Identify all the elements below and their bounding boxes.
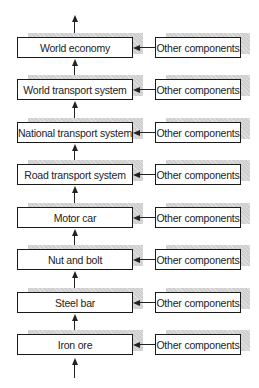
level-row-national-transport-system: National transport system Other componen… xyxy=(0,122,259,148)
level-label: Nut and bolt xyxy=(48,254,102,266)
input-arrow-line xyxy=(139,132,155,133)
input-box: Other components xyxy=(155,122,241,143)
input-arrow-line xyxy=(139,259,155,260)
top-arrow-head-icon xyxy=(72,15,78,22)
input-arrow-line xyxy=(139,174,155,175)
level-box: World transport system xyxy=(17,79,133,100)
connector-arrow-head-icon xyxy=(72,229,78,236)
level-label: Steel bar xyxy=(55,297,95,309)
level-row-iron-ore: Iron ore Other components xyxy=(0,334,259,360)
level-row-world-transport-system: World transport system Other components xyxy=(0,79,259,105)
level-row-steel-bar: Steel bar Other components xyxy=(0,292,259,318)
input-arrow-head-icon xyxy=(133,45,140,51)
connector-arrow-head-icon xyxy=(72,59,78,66)
input-box: Other components xyxy=(155,292,241,313)
input-label: Other components xyxy=(156,339,239,351)
input-box: Other components xyxy=(155,249,241,270)
input-label: Other components xyxy=(156,42,239,54)
input-box: Other components xyxy=(155,164,241,185)
input-arrow-head-icon xyxy=(133,300,140,306)
level-label: Motor car xyxy=(54,212,97,224)
level-row-nut-and-bolt: Nut and bolt Other components xyxy=(0,249,259,275)
input-arrow-line xyxy=(139,89,155,90)
input-arrow-line xyxy=(139,47,155,48)
input-label: Other components xyxy=(156,297,239,309)
input-arrow-head-icon xyxy=(133,87,140,93)
input-box: Other components xyxy=(155,37,241,58)
input-arrow-head-icon xyxy=(133,215,140,221)
connector-arrow-head-icon xyxy=(72,101,78,108)
input-label: Other components xyxy=(156,169,239,181)
input-label: Other components xyxy=(156,254,239,266)
input-label: Other components xyxy=(156,127,239,139)
system-hierarchy-diagram: World economy Other components World tra… xyxy=(0,0,259,388)
level-box: Steel bar xyxy=(17,292,133,313)
input-arrow-line xyxy=(139,344,155,345)
connector-arrow-head-icon xyxy=(72,186,78,193)
level-row-road-transport-system: Road transport system Other components xyxy=(0,164,259,190)
input-arrow-head-icon xyxy=(133,342,140,348)
level-label: World transport system xyxy=(23,84,126,96)
level-box: Iron ore xyxy=(17,334,133,355)
input-box: Other components xyxy=(155,334,241,355)
bottom-arrow-head-icon xyxy=(72,358,78,365)
level-label: National transport system xyxy=(18,127,132,139)
level-row-world-economy: World economy Other components xyxy=(0,37,259,63)
input-arrow-head-icon xyxy=(133,172,140,178)
input-box: Other components xyxy=(155,207,241,228)
level-label: Road transport system xyxy=(24,169,125,181)
input-label: Other components xyxy=(156,84,239,96)
level-box: Road transport system xyxy=(17,164,133,185)
input-arrow-head-icon xyxy=(133,130,140,136)
level-box: Motor car xyxy=(17,207,133,228)
level-box: National transport system xyxy=(17,122,133,143)
input-label: Other components xyxy=(156,212,239,224)
level-box: Nut and bolt xyxy=(17,249,133,270)
input-arrow-line xyxy=(139,217,155,218)
level-box: World economy xyxy=(17,37,133,58)
level-row-motor-car: Motor car Other components xyxy=(0,207,259,233)
level-label: World economy xyxy=(40,42,110,54)
connector-arrow-head-icon xyxy=(72,314,78,321)
input-arrow-line xyxy=(139,302,155,303)
input-box: Other components xyxy=(155,79,241,100)
input-arrow-head-icon xyxy=(133,257,140,263)
connector-arrow-head-icon xyxy=(72,271,78,278)
connector-arrow-head-icon xyxy=(72,144,78,151)
level-label: Iron ore xyxy=(58,339,93,351)
